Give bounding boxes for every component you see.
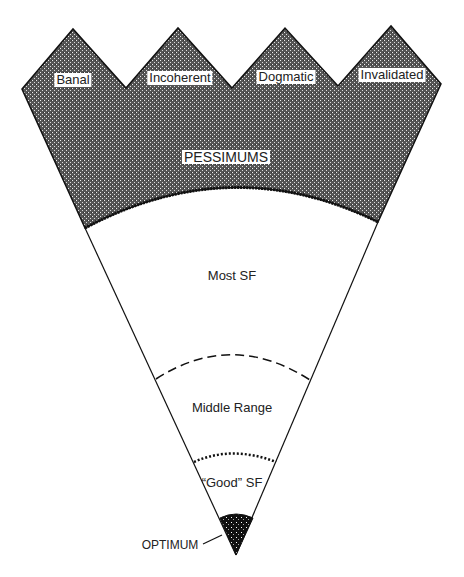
label-incoherent: Incoherent (147, 71, 212, 85)
cone-right-edge (236, 222, 378, 555)
optimum-pointer (203, 535, 222, 544)
label-good-sf: “Good” SF (202, 475, 263, 490)
optimum-region (220, 514, 253, 555)
label-invalidated: Invalidated (359, 68, 426, 82)
middle-range-boundary (156, 355, 310, 380)
label-most-sf: Most SF (208, 268, 256, 283)
label-optimum: OPTIMUM (142, 538, 199, 552)
pessimums-region (22, 26, 441, 228)
label-pessimums: PESSIMUMS (182, 150, 270, 164)
label-dogmatic: Dogmatic (257, 70, 316, 84)
label-banal: Banal (54, 73, 91, 87)
label-middle-range: Middle Range (192, 400, 272, 415)
good-sf-boundary (194, 454, 276, 463)
